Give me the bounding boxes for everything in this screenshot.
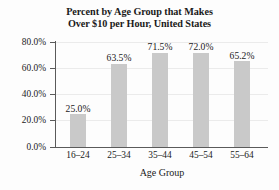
y-tick-mark-0: [50, 147, 55, 148]
y-tick-label-20: 20.0%: [0, 115, 46, 125]
y-tick-mark-40: [50, 94, 55, 95]
bar-45-54[interactable]: [193, 53, 209, 148]
bar-value-label-25-34: 63.5%: [92, 53, 146, 63]
y-axis-line: [55, 41, 56, 148]
x-axis-line: [55, 147, 268, 148]
y-tick-label-60: 60.0%: [0, 63, 46, 73]
bar-value-label-55-64: 65.2%: [215, 51, 269, 61]
bar-value-label-16-24: 25.0%: [51, 104, 105, 114]
bar-16-24[interactable]: [70, 114, 86, 147]
bar-35-44[interactable]: [152, 53, 168, 147]
bar-55-64[interactable]: [234, 61, 250, 147]
y-tick-label-80: 80.0%: [0, 37, 46, 47]
chart-title-line-1: Percent by Age Group that Makes: [0, 6, 279, 18]
y-tick-label-40: 40.0%: [0, 89, 46, 99]
chart-title: Percent by Age Group that Makes Over $10…: [0, 6, 279, 30]
y-tick-mark-80: [50, 42, 55, 43]
chart-title-line-2: Over $10 per Hour, United States: [0, 18, 279, 30]
y-tick-mark-20: [50, 120, 55, 121]
bar-25-34[interactable]: [111, 64, 127, 147]
x-axis-title: Age Group: [56, 167, 268, 179]
y-tick-mark-60: [50, 68, 55, 69]
bar-chart-figure: Percent by Age Group that Makes Over $10…: [0, 0, 279, 190]
x-tick-label-55-64: 55–64: [215, 150, 269, 160]
y-tick-label-0: 0.0%: [0, 142, 46, 152]
